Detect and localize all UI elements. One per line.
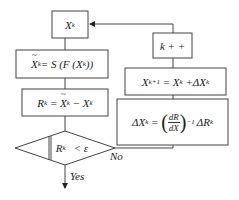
node-solve: Xk = S (F (Xk)) (16, 50, 108, 78)
node-update: Xk+1 = Xk +ΔXk (125, 68, 226, 95)
edge-label-no: No (110, 150, 123, 162)
node-init: Xk (52, 11, 88, 38)
node-increment: k + + (153, 33, 192, 58)
node-decision: Rk< ε (40, 138, 92, 158)
edge-label-yes: Yes (70, 170, 84, 182)
node-newton: ΔXk = (dRdX)−1ΔRk (117, 99, 228, 145)
node-residual: Rk = Xk − Xk (22, 89, 108, 116)
flowchart: Xk Xk = S (F (Xk)) Rk = Xk − Xk Rk< ε k … (0, 0, 239, 200)
